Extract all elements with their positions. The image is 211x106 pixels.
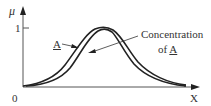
concentration-leader <box>92 36 138 52</box>
annotation-line2: of A <box>158 44 177 55</box>
curve-label-a: A <box>53 39 61 50</box>
x-axis-arrow-icon <box>191 84 200 90</box>
annotation-line1: Concentration <box>141 29 203 40</box>
membership-diagram: μ 1 0 X A Concentration of A <box>0 0 211 106</box>
y-axis-label: μ <box>9 6 15 17</box>
origin-label: 0 <box>12 93 18 104</box>
annotation-of: of <box>158 43 169 55</box>
diagram-canvas <box>0 0 211 106</box>
concentration-arrow-icon <box>88 49 96 53</box>
annotation-symbol-a: A <box>169 43 177 55</box>
y-axis-arrow-icon <box>20 6 26 15</box>
x-axis-label: X <box>190 93 198 104</box>
y-tick-label: 1 <box>15 23 21 34</box>
